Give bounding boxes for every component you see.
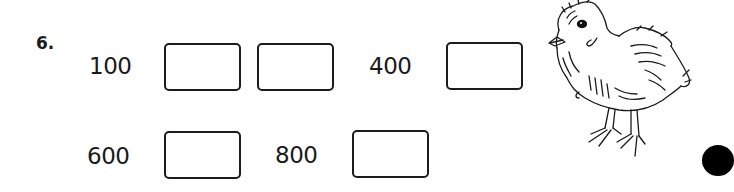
chick-illustration-icon	[545, 0, 695, 165]
answer-box-4[interactable]	[164, 131, 241, 179]
answer-box-1[interactable]	[164, 43, 241, 91]
black-circle-marker	[702, 145, 734, 176]
answer-box-2[interactable]	[257, 43, 334, 91]
number-400: 400	[369, 55, 411, 78]
question-number: 6.	[36, 33, 54, 53]
number-600: 600	[87, 145, 129, 168]
number-800: 800	[275, 144, 317, 167]
answer-box-5[interactable]	[352, 130, 429, 178]
answer-box-3[interactable]	[446, 42, 523, 90]
number-100: 100	[89, 55, 131, 78]
